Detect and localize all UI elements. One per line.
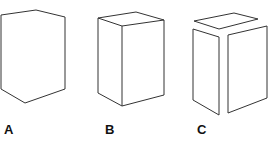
figure-c-left-face xyxy=(193,29,219,115)
figure-a-label: A xyxy=(4,122,13,137)
figure-c-right-face xyxy=(228,26,267,113)
figure-c-label: C xyxy=(197,122,206,137)
figure-b-shape xyxy=(98,12,164,106)
figure-b-label: B xyxy=(105,122,114,137)
figures-diagram xyxy=(0,0,272,142)
figure-c-top-face xyxy=(194,13,258,29)
figure-c-shape xyxy=(193,13,267,115)
figure-a-shape xyxy=(1,10,65,103)
